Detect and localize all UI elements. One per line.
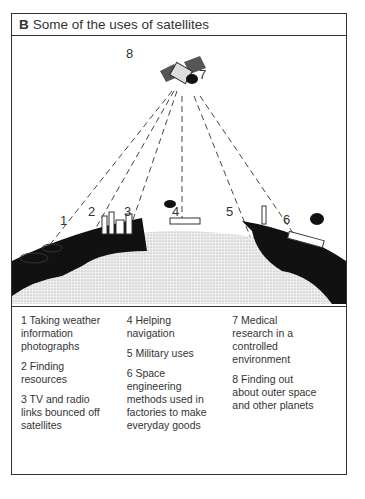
legend-item: 2 Finding resources <box>21 360 109 386</box>
legend-item: 3 TV and radio links bounced off satelli… <box>21 393 109 432</box>
label-2: 2 <box>88 204 95 219</box>
legend-item: 8 Finding out about outer space and othe… <box>232 373 320 412</box>
label-3: 3 <box>124 204 131 219</box>
label-6: 6 <box>283 212 290 227</box>
label-8: 8 <box>126 46 133 61</box>
label-5: 5 <box>226 204 233 219</box>
legend-col-2: 4 Helping navigation 5 Military uses 6 S… <box>127 314 233 439</box>
legend-item: 6 Space engineering methods used in fact… <box>127 367 215 432</box>
legend-item: 5 Military uses <box>127 347 215 360</box>
legend-item: 1 Taking weather information photographs <box>21 314 109 353</box>
figure-letter: B <box>19 17 29 32</box>
figure-title-text: Some of the uses of satellites <box>33 17 209 32</box>
label-1: 1 <box>60 213 67 228</box>
label-7: 7 <box>199 67 206 82</box>
label-4: 4 <box>172 204 179 219</box>
legend-col-3: 7 Medical research in a controlled envir… <box>232 314 338 439</box>
legend-col-1: 1 Taking weather information photographs… <box>21 314 127 439</box>
figure-title: BSome of the uses of satellites <box>12 14 346 36</box>
legend-item: 4 Helping navigation <box>127 314 215 340</box>
rocket-icon <box>262 206 266 224</box>
satellite-diagram: 8 7 1 2 3 4 5 6 <box>12 36 346 307</box>
legend-item: 7 Medical research in a controlled envir… <box>232 314 320 366</box>
figure-frame: BSome of the uses of satellites <box>11 13 347 475</box>
legend: 1 Taking weather information photographs… <box>12 307 346 439</box>
